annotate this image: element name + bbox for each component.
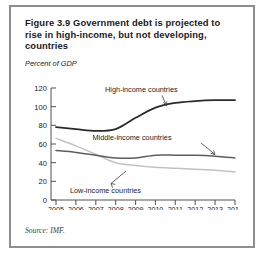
x-tick-labels: 2005 2006 2007 2008 2009 2010 2011 2012 … xyxy=(48,206,239,211)
series-label-high-income: High-income countries xyxy=(105,85,178,94)
figure-card: Figure 3.9 Government debt is projected … xyxy=(9,5,255,248)
series-line-high-income xyxy=(56,100,235,131)
leader-line-middle-income xyxy=(201,143,215,155)
x-tick-label: 2010 xyxy=(148,206,164,211)
x-tick-label: 2013 xyxy=(207,206,223,211)
y-tick-label: 100 xyxy=(34,103,47,112)
y-tick-label: 120 xyxy=(34,84,47,93)
y-tick-group: 120 100 80 60 40 20 0 xyxy=(34,84,56,205)
y-tick-label: 0 xyxy=(43,196,47,205)
x-tick-label: 2014 xyxy=(227,206,239,211)
y-tick-label: 20 xyxy=(39,177,47,186)
series-line-middle-income xyxy=(56,151,235,159)
y-tick-label: 80 xyxy=(39,121,47,130)
x-tick-label: 2006 xyxy=(68,206,84,211)
x-tick-label: 2009 xyxy=(128,206,144,211)
x-tick-label: 2012 xyxy=(187,206,203,211)
leader-line-high-income xyxy=(162,96,167,106)
y-axis-label: Percent of GDP xyxy=(25,59,77,68)
y-tick-label: 60 xyxy=(39,140,47,149)
series-label-middle-income: Middle-income countries xyxy=(92,133,171,142)
source-note: Source: IMF. xyxy=(25,226,65,235)
series-label-low-income: Low-income countries xyxy=(70,186,141,195)
chart-svg: 120 100 80 60 40 20 0 xyxy=(25,70,239,210)
x-tick-label: 2011 xyxy=(168,206,183,211)
x-tick-group xyxy=(56,200,235,205)
x-tick-label: 2007 xyxy=(88,206,104,211)
y-tick-label: 40 xyxy=(39,159,47,168)
x-tick-label: 2005 xyxy=(48,206,64,211)
x-tick-label: 2008 xyxy=(108,206,124,211)
page-title: Figure 3.9 Government debt is projected … xyxy=(25,17,239,52)
line-chart: 120 100 80 60 40 20 0 xyxy=(25,70,239,210)
